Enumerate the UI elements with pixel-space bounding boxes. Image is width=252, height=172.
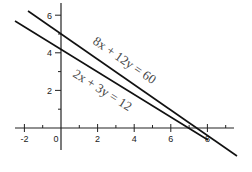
x-tick-label: 6 bbox=[168, 134, 173, 144]
x-tick-label: -2 bbox=[20, 134, 28, 144]
y-ticks bbox=[55, 15, 61, 109]
line-2x-3y-12 bbox=[15, 21, 208, 140]
y-tick-label: 4 bbox=[47, 48, 52, 58]
x-tick-label: 0 bbox=[53, 134, 58, 144]
line-plot: -2 0 2 4 6 8 2 4 6 8x + 12y = 60 2x + 3y… bbox=[0, 0, 252, 172]
y-tick-label: 6 bbox=[47, 11, 52, 21]
series-lines bbox=[15, 11, 237, 156]
x-tick-label: 4 bbox=[132, 134, 137, 144]
x-tick-label: 2 bbox=[95, 134, 100, 144]
y-tick-label: 2 bbox=[47, 86, 52, 96]
